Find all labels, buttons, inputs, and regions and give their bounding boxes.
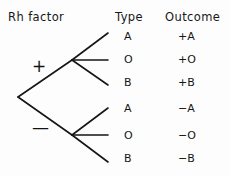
type-label-row-2: O [124,54,133,65]
column-header-rh-factor: Rh factor [8,10,64,24]
type-label-row-4: A [124,103,132,114]
column-header-type: Type [115,10,143,24]
branch-minus-to-b [72,135,108,162]
outcome-label-row-4: −A [178,103,195,114]
type-label-row-1: A [124,31,132,42]
outcome-label-row-5: −O [178,130,196,141]
branch-plus-to-a [72,33,108,60]
type-label-row-6: B [124,153,132,164]
outcome-label-row-6: −B [178,153,195,164]
type-label-row-5: O [124,130,133,141]
tree-branch-lines [0,0,230,176]
branch-minus-to-a [72,108,108,135]
outcome-label-row-3: +B [178,77,195,88]
outcome-label-row-2: +O [178,54,196,65]
outcome-label-row-1: +A [178,31,195,42]
branch-plus-to-b [72,60,108,85]
column-header-outcome: Outcome [165,10,220,24]
branch-label-rh-positive: + [32,58,46,75]
type-label-row-3: B [124,77,132,88]
branch-label-rh-negative: — [32,119,49,136]
tree-diagram-canvas: Rh factor Type Outcome + — A O B A O B +… [0,0,230,176]
